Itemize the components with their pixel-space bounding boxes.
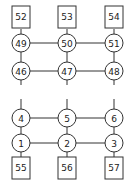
circle-node: 3: [105, 134, 123, 152]
svg-text:52: 52: [15, 12, 26, 22]
circle-node: 47: [58, 62, 76, 80]
square-node: 53: [58, 6, 76, 28]
circle-node: 46: [12, 62, 30, 80]
circle-node: 1: [12, 134, 30, 152]
svg-text:4: 4: [18, 114, 24, 124]
svg-text:48: 48: [108, 67, 120, 77]
svg-text:46: 46: [15, 67, 27, 77]
svg-text:55: 55: [15, 163, 26, 173]
square-node: 52: [12, 6, 30, 28]
top-square-row: 52 53 54: [12, 6, 123, 28]
circle-row-second: 46 47 48: [12, 62, 123, 80]
svg-text:1: 1: [18, 139, 24, 149]
square-node: 56: [58, 157, 76, 179]
circle-row-upper: 49 50 51: [12, 34, 123, 52]
grid-node-diagram: 52 53 54 49 50 51 46 47 48 4 5 6 1 2 3 5…: [0, 0, 133, 184]
circle-node: 51: [105, 34, 123, 52]
circle-node: 6: [105, 109, 123, 127]
circle-node: 48: [105, 62, 123, 80]
bottom-square-row: 55 56 57: [12, 157, 123, 179]
svg-text:53: 53: [61, 12, 72, 22]
circle-node: 4: [12, 109, 30, 127]
circle-node: 49: [12, 34, 30, 52]
circle-row-third: 4 5 6: [12, 109, 123, 127]
circle-node: 5: [58, 109, 76, 127]
svg-text:50: 50: [61, 39, 73, 49]
svg-text:49: 49: [15, 39, 27, 49]
svg-text:6: 6: [111, 114, 117, 124]
svg-text:54: 54: [108, 12, 120, 22]
svg-text:2: 2: [64, 139, 70, 149]
square-node: 57: [105, 157, 123, 179]
svg-text:57: 57: [108, 163, 119, 173]
svg-text:3: 3: [111, 139, 117, 149]
square-node: 54: [105, 6, 123, 28]
circle-node: 50: [58, 34, 76, 52]
circle-node: 2: [58, 134, 76, 152]
circle-row-bottom: 1 2 3: [12, 134, 123, 152]
svg-text:47: 47: [61, 67, 72, 77]
svg-text:56: 56: [61, 163, 73, 173]
square-node: 55: [12, 157, 30, 179]
svg-text:5: 5: [64, 114, 70, 124]
svg-text:51: 51: [108, 39, 119, 49]
